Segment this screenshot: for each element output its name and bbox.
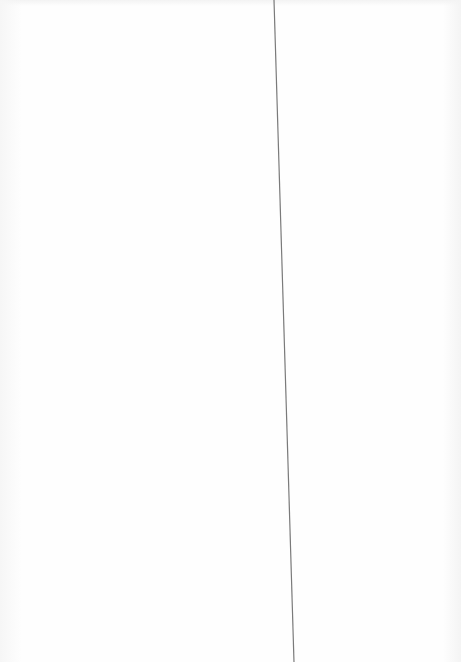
blank-scanned-page (0, 0, 461, 662)
divider-line (274, 0, 294, 662)
vertical-rule-line (0, 0, 461, 662)
